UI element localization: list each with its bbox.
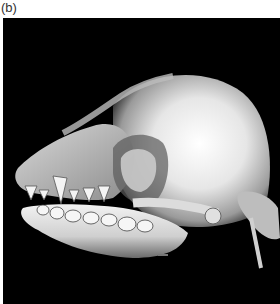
skull-illustration	[3, 18, 280, 304]
panel-label: (b)	[1, 0, 17, 16]
ct-skull-rendering	[3, 18, 280, 304]
